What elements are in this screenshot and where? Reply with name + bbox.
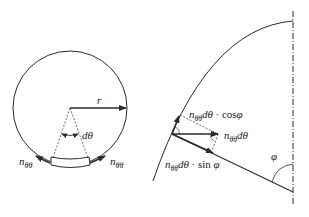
meridian-section: φ nθθdθ · cosφ nθθdθ nθθdθ · sin φ (153, 11, 293, 206)
phi-angle-arc (272, 164, 293, 182)
force-label-right: nθθ (110, 155, 123, 170)
sin-component-label: nθθdθ · sin φ (165, 158, 220, 173)
shell-element (51, 157, 90, 168)
radius-label: r (97, 94, 102, 106)
force-label-left: nθθ (19, 155, 32, 170)
dashed-line-left (53, 108, 70, 158)
small-angle-arc-left (175, 127, 179, 134)
sin-component-vector (172, 134, 213, 153)
dtheta-label: dθ (82, 129, 94, 141)
phi-label: φ (271, 150, 277, 162)
small-angle-arc-right (210, 134, 214, 141)
projection-dashed-right (212, 134, 218, 151)
resultant-label: nθθdθ (224, 129, 248, 144)
cos-component-label: nθθdθ · cosφ (189, 108, 243, 123)
dtheta-arc-arrow (62, 134, 78, 136)
force-arrow-right (90, 156, 105, 163)
cos-component-vector (172, 116, 179, 134)
circle-cross-section: r dθ nθθ nθθ (13, 51, 127, 170)
shell-membrane-diagram: r dθ nθθ nθθ φ (0, 0, 309, 217)
force-arrow-left (36, 156, 50, 163)
